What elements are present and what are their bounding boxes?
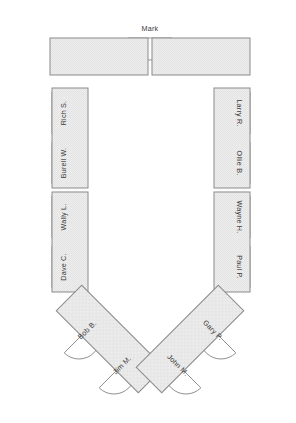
left-lower-table[interactable] <box>52 192 88 292</box>
right-lower-table[interactable] <box>214 192 250 292</box>
diagram-canvas <box>0 0 296 423</box>
right-upper-table[interactable] <box>214 88 250 188</box>
top-right-table[interactable] <box>152 38 250 75</box>
left-upper-table[interactable] <box>52 88 88 188</box>
seating-chart-diagram: MarkRich S.Burell W.Wally L.Dave C.Larry… <box>0 0 296 423</box>
top-left-table[interactable] <box>50 38 148 75</box>
